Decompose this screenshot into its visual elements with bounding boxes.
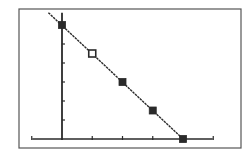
screen-background xyxy=(0,0,248,156)
calculator-graph-screen xyxy=(0,0,248,156)
filled-square-point xyxy=(180,136,187,143)
filled-square-point xyxy=(119,79,126,86)
filled-square-point xyxy=(149,107,156,114)
open-square-point xyxy=(89,50,96,57)
filled-square-point xyxy=(59,22,66,29)
